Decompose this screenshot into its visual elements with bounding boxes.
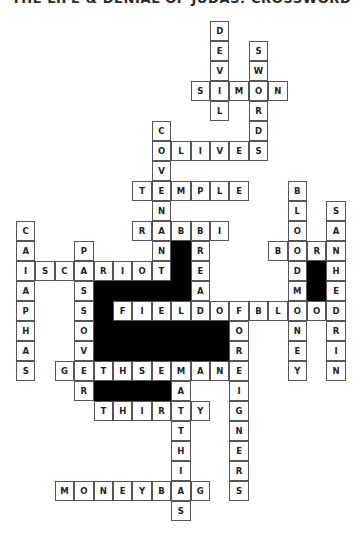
letter-cell[interactable]: P xyxy=(74,241,93,261)
letter-cell[interactable]: M xyxy=(171,181,190,201)
letter-cell[interactable]: N xyxy=(229,421,248,441)
letter-cell[interactable]: Y xyxy=(288,361,307,381)
letter-cell[interactable]: S xyxy=(191,81,210,101)
letter-cell[interactable]: E xyxy=(210,41,229,61)
letter-cell[interactable]: I xyxy=(229,381,248,401)
letter-cell[interactable]: V xyxy=(74,341,93,361)
letter-cell[interactable]: V xyxy=(210,141,229,161)
letter-cell[interactable]: M xyxy=(288,281,307,301)
letter-cell[interactable]: L xyxy=(268,301,287,321)
letter-cell[interactable]: S xyxy=(249,141,268,161)
letter-cell[interactable]: P xyxy=(191,181,210,201)
letter-cell[interactable]: E xyxy=(229,441,248,461)
letter-cell[interactable]: D xyxy=(326,301,345,321)
letter-cell[interactable]: O xyxy=(288,301,307,321)
letter-cell[interactable]: V xyxy=(152,161,171,181)
letter-cell[interactable]: E xyxy=(191,261,210,281)
letter-cell[interactable]: D xyxy=(288,261,307,281)
letter-cell[interactable]: I xyxy=(16,261,35,281)
letter-cell[interactable]: C xyxy=(16,221,35,241)
letter-cell[interactable]: C xyxy=(55,261,74,281)
letter-cell[interactable]: O xyxy=(229,321,248,341)
letter-cell[interactable]: T xyxy=(171,421,190,441)
letter-cell[interactable]: T xyxy=(132,181,151,201)
letter-cell[interactable]: A xyxy=(16,281,35,301)
letter-cell[interactable]: I xyxy=(210,81,229,101)
letter-cell[interactable]: E xyxy=(229,141,248,161)
letter-cell[interactable]: A xyxy=(171,481,190,501)
letter-cell[interactable]: I xyxy=(132,401,151,421)
letter-cell[interactable]: E xyxy=(152,361,171,381)
letter-cell[interactable]: B xyxy=(288,181,307,201)
letter-cell[interactable]: M xyxy=(171,361,190,381)
letter-cell[interactable]: O xyxy=(74,481,93,501)
letter-cell[interactable]: I xyxy=(171,461,190,481)
letter-cell[interactable]: M xyxy=(55,481,74,501)
letter-cell[interactable]: S xyxy=(16,361,35,381)
letter-cell[interactable]: R xyxy=(326,321,345,341)
letter-cell[interactable]: I xyxy=(132,301,151,321)
letter-cell[interactable]: E xyxy=(229,181,248,201)
letter-cell[interactable]: D xyxy=(249,121,268,141)
letter-cell[interactable]: R xyxy=(307,241,326,261)
letter-cell[interactable]: R xyxy=(132,221,151,241)
letter-cell[interactable]: R xyxy=(229,341,248,361)
letter-cell[interactable]: A xyxy=(74,261,93,281)
letter-cell[interactable]: O xyxy=(74,321,93,341)
letter-cell[interactable]: S xyxy=(229,481,248,501)
letter-cell[interactable]: I xyxy=(113,261,132,281)
letter-cell[interactable]: M xyxy=(229,81,248,101)
letter-cell[interactable]: H xyxy=(113,401,132,421)
letter-cell[interactable]: E xyxy=(152,181,171,201)
letter-cell[interactable]: P xyxy=(16,301,35,321)
letter-cell[interactable]: S xyxy=(171,501,190,521)
letter-cell[interactable]: N xyxy=(94,481,113,501)
letter-cell[interactable]: I xyxy=(191,141,210,161)
letter-cell[interactable]: B xyxy=(191,221,210,241)
letter-cell[interactable]: F xyxy=(229,301,248,321)
letter-cell[interactable]: S xyxy=(249,41,268,61)
letter-cell[interactable]: R xyxy=(94,261,113,281)
letter-cell[interactable]: S xyxy=(74,301,93,321)
letter-cell[interactable]: D xyxy=(191,301,210,321)
letter-cell[interactable]: Y xyxy=(132,481,151,501)
letter-cell[interactable]: L xyxy=(171,301,190,321)
letter-cell[interactable]: A xyxy=(326,221,345,241)
letter-cell[interactable]: F xyxy=(113,301,132,321)
letter-cell[interactable]: N xyxy=(326,241,345,261)
letter-cell[interactable]: B xyxy=(249,301,268,321)
letter-cell[interactable]: H xyxy=(16,321,35,341)
letter-cell[interactable]: G xyxy=(191,481,210,501)
letter-cell[interactable]: S xyxy=(74,281,93,301)
letter-cell[interactable]: H xyxy=(171,441,190,461)
letter-cell[interactable]: S xyxy=(132,361,151,381)
letter-cell[interactable]: N xyxy=(210,361,229,381)
letter-cell[interactable]: R xyxy=(229,461,248,481)
letter-cell[interactable]: D xyxy=(210,21,229,41)
letter-cell[interactable]: N xyxy=(288,321,307,341)
letter-cell[interactable]: O xyxy=(307,301,326,321)
letter-cell[interactable]: I xyxy=(210,221,229,241)
letter-cell[interactable]: S xyxy=(326,201,345,221)
letter-cell[interactable]: E xyxy=(229,361,248,381)
letter-cell[interactable]: H xyxy=(326,261,345,281)
letter-cell[interactable]: A xyxy=(191,361,210,381)
letter-cell[interactable]: E xyxy=(113,481,132,501)
letter-cell[interactable]: T xyxy=(171,401,190,421)
letter-cell[interactable]: O xyxy=(152,141,171,161)
letter-cell[interactable]: S xyxy=(35,261,54,281)
letter-cell[interactable]: R xyxy=(152,401,171,421)
letter-cell[interactable]: T xyxy=(94,361,113,381)
letter-cell[interactable]: B xyxy=(152,481,171,501)
letter-cell[interactable]: R xyxy=(74,381,93,401)
letter-cell[interactable]: L xyxy=(210,181,229,201)
letter-cell[interactable]: E xyxy=(74,361,93,381)
letter-cell[interactable]: N xyxy=(268,81,287,101)
letter-cell[interactable]: C xyxy=(152,121,171,141)
letter-cell[interactable]: I xyxy=(326,341,345,361)
letter-cell[interactable]: A xyxy=(16,241,35,261)
letter-cell[interactable]: O xyxy=(288,241,307,261)
letter-cell[interactable]: A xyxy=(152,221,171,241)
letter-cell[interactable]: G xyxy=(229,401,248,421)
letter-cell[interactable]: O xyxy=(210,301,229,321)
